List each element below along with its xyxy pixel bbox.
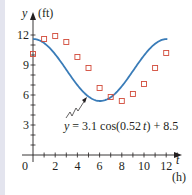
x-tick-label: 8 bbox=[119, 159, 125, 173]
x-tick-label: 10 bbox=[138, 159, 150, 173]
annotation-pointer bbox=[66, 100, 85, 118]
y-axis-arrow-icon bbox=[30, 12, 36, 20]
model-curve bbox=[33, 39, 167, 101]
data-point bbox=[153, 66, 158, 71]
data-point bbox=[53, 34, 58, 39]
y-tick-label: 3 bbox=[23, 118, 29, 132]
y-axis-unit: (ft) bbox=[38, 6, 53, 20]
y-axis-label: y bbox=[21, 6, 28, 20]
y-tick-label: 12 bbox=[17, 28, 29, 42]
x-tick-label: 2 bbox=[52, 159, 58, 173]
equation-lhs: y bbox=[63, 119, 70, 133]
data-point bbox=[164, 51, 169, 56]
x-axis-unit: (h) bbox=[172, 170, 186, 184]
chart: y (ft) t (h) 0 24681012 36912 y=3.1 cos(… bbox=[0, 0, 192, 195]
y-tick-label: 6 bbox=[23, 88, 29, 102]
data-point bbox=[42, 37, 47, 42]
equation-equals: = bbox=[72, 119, 79, 133]
x-tick-label: 6 bbox=[97, 159, 103, 173]
data-point bbox=[130, 92, 135, 97]
data-point bbox=[119, 99, 124, 104]
equation-label: y=3.1 cos(0.52t) + 8.5 bbox=[63, 119, 178, 133]
annotation-arrowhead-icon bbox=[82, 97, 87, 103]
equation-rhs-a: 3.1 cos(0.52 bbox=[82, 119, 141, 133]
equation-rhs-b: ) + 8.5 bbox=[146, 119, 178, 133]
x-tick-label: 4 bbox=[74, 159, 80, 173]
data-points bbox=[31, 34, 169, 104]
y-tick-labels: 36912 bbox=[17, 28, 29, 132]
origin-label: 0 bbox=[22, 159, 28, 173]
x-tick-label: 12 bbox=[160, 159, 172, 173]
data-point bbox=[142, 82, 147, 87]
y-tick-label: 9 bbox=[23, 58, 29, 72]
data-point bbox=[86, 66, 91, 71]
data-point bbox=[97, 86, 102, 91]
x-tick-labels: 24681012 bbox=[52, 159, 172, 173]
data-point bbox=[75, 55, 80, 60]
data-point bbox=[64, 40, 69, 45]
